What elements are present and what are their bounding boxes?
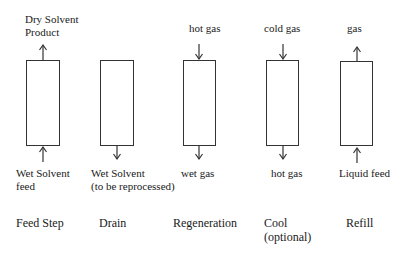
cool-bottom-label: hot gas	[271, 167, 302, 180]
step-name-cool: Cool (optional)	[264, 216, 311, 244]
arrow-up-icon	[40, 147, 47, 162]
label-line: Dry Solvent	[25, 13, 78, 26]
regeneration-top-label: hot gas	[189, 22, 220, 35]
step-name-regeneration: Regeneration	[173, 216, 237, 230]
arrow-down-icon	[114, 146, 121, 159]
label-line: feed	[16, 180, 70, 193]
arrow-down-icon	[196, 44, 203, 59]
cool-top-label: cold gas	[264, 22, 300, 35]
arrow-up-icon	[354, 47, 361, 61]
step-name-feed: Feed Step	[16, 216, 64, 230]
arrow-up-icon	[40, 45, 47, 60]
arrow-down-icon	[196, 146, 203, 159]
arrow-down-icon	[280, 146, 287, 159]
drain-bottom-label: Wet Solvent (to be reprocessed)	[91, 167, 175, 193]
step-name-line: Cool	[264, 216, 311, 230]
regeneration-bottom-label: wet gas	[181, 167, 214, 180]
arrow-down-icon	[280, 44, 287, 59]
label-line: Wet Solvent	[91, 167, 175, 180]
step-name-refill: Refill	[346, 216, 373, 230]
feed-bottom-label: Wet Solvent feed	[16, 167, 70, 193]
label-line: (to be reprocessed)	[91, 180, 175, 193]
label-line: Product	[25, 26, 78, 39]
refill-top-label: gas	[347, 22, 362, 35]
step-name-drain: Drain	[99, 216, 126, 230]
step-name-line: (optional)	[264, 230, 311, 244]
label-line: Wet Solvent	[16, 167, 70, 180]
refill-bottom-label: Liquid feed	[339, 167, 390, 180]
arrow-up-icon	[354, 148, 361, 163]
feed-top-label: Dry Solvent Product	[25, 13, 78, 39]
